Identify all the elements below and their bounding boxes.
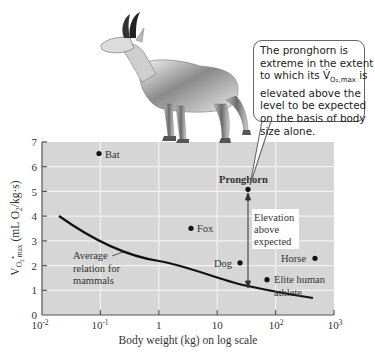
label-dog: Dog: [214, 258, 233, 269]
point-horse: [312, 256, 317, 261]
point-dog: [237, 260, 242, 265]
svg-text:Elevation: Elevation: [254, 212, 295, 223]
label-horse: Horse: [281, 253, 306, 264]
svg-text:relation for: relation for: [73, 263, 120, 274]
label-bat: Bat: [105, 149, 120, 160]
callout-line: level to be expected: [260, 99, 360, 112]
x-tick-1: 10-1: [91, 318, 108, 331]
y-tick-5: 5: [32, 186, 38, 198]
callout-line: extreme in the extent: [260, 57, 360, 70]
callout-vo2-symbol: to which its V̇: [260, 69, 330, 81]
svg-text:mammals: mammals: [73, 275, 114, 286]
y-tick-1: 1: [32, 284, 38, 296]
svg-text:above: above: [254, 224, 279, 235]
y-axis-label: VO2 max (mL O2/kg·s): [9, 180, 25, 275]
callout-line: elevated above the: [260, 87, 360, 100]
x-tick-4: 102: [269, 318, 284, 331]
x-tick-3: 10: [212, 319, 224, 331]
point-pronghorn: [245, 187, 250, 192]
y-tick-7: 7: [32, 136, 38, 148]
callout-line: The pronghorn is: [260, 44, 360, 57]
callout-line: on the basis of body: [260, 112, 360, 125]
x-axis-label: Body weight (kg) on log scale: [119, 334, 258, 347]
point-fox: [188, 226, 193, 231]
point-bat: [96, 151, 101, 156]
y-tick-2: 2: [32, 260, 38, 272]
pronghorn-callout: The pronghorn is extreme in the extent t…: [253, 40, 365, 122]
label-pronghorn: Pronghorn: [219, 174, 268, 185]
callout-text: is: [356, 69, 368, 81]
point-elite-human: [264, 277, 269, 282]
label-elite-human-1: Elite human: [274, 274, 326, 285]
callout-line: to which its V̇O₂,max is: [260, 69, 360, 87]
vdot-mark: [12, 257, 14, 259]
pronghorn-illustration: [101, 12, 251, 143]
x-tick-2: 1: [156, 319, 162, 331]
y-tick-3: 3: [32, 235, 38, 247]
callout-vo2-subscript: O₂,max: [330, 76, 356, 84]
x-tick-labels: 10-2 10-1 1 10 102 103: [31, 318, 342, 331]
y-tick-4: 4: [32, 210, 38, 222]
svg-text:expected: expected: [254, 236, 292, 247]
label-fox: Fox: [197, 223, 214, 234]
y-tick-labels: 0 1 2 3 4 5 6 7: [32, 136, 38, 321]
x-tick-0: 10-2: [31, 318, 48, 331]
callout-line: size alone.: [260, 125, 360, 138]
y-tick-6: 6: [32, 161, 38, 173]
label-elite-human-2: athlete: [274, 287, 302, 298]
x-tick-5: 103: [328, 318, 343, 331]
svg-text:Average: Average: [73, 250, 108, 261]
